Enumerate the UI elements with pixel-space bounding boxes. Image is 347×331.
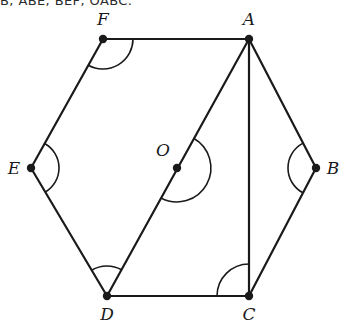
angle-E	[45, 144, 59, 193]
edge-EF	[31, 39, 103, 168]
edge-AB	[249, 39, 316, 168]
vertex-dot-f	[99, 35, 107, 43]
vertex-label-c: C	[242, 304, 255, 324]
vertex-label-a: A	[241, 9, 255, 29]
vertex-label-f: F	[96, 9, 110, 29]
vertex-dot-o	[173, 164, 181, 172]
vertex-label-d: D	[99, 304, 114, 324]
hexagon-diagram: ABCDEFO	[0, 0, 347, 331]
edge-DE	[31, 168, 107, 296]
vertex-label-b: B	[326, 158, 340, 178]
geometry-figure-root: B, ABE, BEF, OABC. ABCDEFO	[0, 0, 347, 331]
vertex-dot-a	[245, 35, 253, 43]
vertex-dot-e	[27, 164, 35, 172]
vertex-dot-b	[312, 164, 320, 172]
vertex-label-e: E	[7, 158, 21, 178]
vertex-label-o: O	[156, 140, 170, 160]
angle-C	[217, 264, 249, 296]
angle-B	[288, 143, 303, 193]
vertex-dot-d	[103, 292, 111, 300]
edge-BC	[249, 168, 316, 296]
vertex-labels-group: ABCDEFO	[7, 9, 339, 324]
vertex-dot-c	[245, 292, 253, 300]
vertex-dots-group	[27, 35, 320, 300]
angle-D	[92, 266, 122, 270]
